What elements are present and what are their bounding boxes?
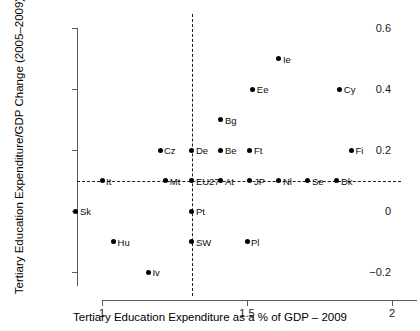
data-point-marker — [305, 178, 310, 183]
data-point-marker — [189, 239, 194, 244]
data-point-marker — [100, 178, 105, 183]
y-tick-mark — [72, 28, 77, 29]
data-point-label: Be — [225, 146, 237, 156]
data-point-label: Nl — [283, 177, 292, 187]
data-point-label: Pt — [196, 207, 205, 217]
data-point-marker — [245, 239, 250, 244]
data-point-marker — [218, 178, 223, 183]
data-point-label: Ee — [257, 85, 269, 95]
data-point-label: JP — [254, 177, 265, 187]
x-tick-mark — [102, 301, 103, 306]
data-point-label: SW — [196, 238, 211, 248]
data-point-label: Ft — [254, 146, 262, 156]
data-point-label: Fi — [355, 146, 363, 156]
y-axis-line — [77, 28, 78, 286]
data-point-label: Pl — [251, 238, 259, 248]
data-point-marker — [218, 117, 223, 122]
data-point-marker — [163, 178, 168, 183]
data-point-label: It — [106, 177, 111, 187]
data-point-label: EU27 — [196, 177, 220, 187]
data-point-marker — [146, 270, 151, 275]
data-point-label: Bg — [225, 116, 237, 126]
y-tick-mark — [72, 89, 77, 90]
y-tick-label: 0 — [385, 206, 391, 217]
data-point-label: Ie — [283, 55, 291, 65]
data-point-marker — [334, 178, 339, 183]
data-point-marker — [276, 56, 281, 61]
y-tick-label: −0.2 — [369, 267, 391, 278]
data-point-label: Sk — [80, 207, 91, 217]
data-point-label: Dk — [341, 177, 353, 187]
data-point-marker — [247, 148, 252, 153]
data-point-marker — [337, 87, 342, 92]
data-point-label: Cy — [344, 85, 356, 95]
data-point-label: Hu — [118, 238, 130, 248]
x-tick-mark — [392, 301, 393, 306]
y-tick-mark — [72, 272, 77, 273]
data-point-marker — [111, 239, 116, 244]
data-point-marker — [189, 178, 194, 183]
data-point-marker — [73, 209, 78, 214]
y-axis-title: Tertiary Education Expenditure/GDP Chang… — [13, 0, 25, 306]
y-tick-label: 0.4 — [376, 84, 391, 95]
scatter-plot-figure: 0.60.40.20−0.2 11.52 IeEeCyBgCzDeBeFtFiI… — [0, 0, 420, 331]
data-point-label: Iv — [152, 268, 159, 278]
x-tick-mark — [247, 301, 248, 306]
data-point-marker — [189, 148, 194, 153]
data-point-marker — [158, 148, 163, 153]
data-point-label: Se — [312, 177, 324, 187]
y-tick-label: 0.6 — [376, 23, 391, 34]
y-tick-label: 0.2 — [376, 145, 391, 156]
data-point-label: Cz — [164, 146, 176, 156]
y-tick-mark — [72, 150, 77, 151]
data-point-marker — [276, 178, 281, 183]
x-axis-line — [102, 300, 417, 301]
reference-line-vertical — [192, 14, 193, 296]
data-point-marker — [189, 209, 194, 214]
data-point-label: Mt — [170, 177, 181, 187]
data-point-label: De — [196, 146, 208, 156]
data-point-marker — [247, 178, 252, 183]
data-point-marker — [250, 87, 255, 92]
data-point-marker — [349, 148, 354, 153]
x-axis-title: Tertiary Education Expenditure as a % of… — [0, 311, 420, 323]
plot-area: 0.60.40.20−0.2 11.52 IeEeCyBgCzDeBeFtFiI… — [77, 14, 401, 280]
data-point-marker — [218, 148, 223, 153]
data-point-label: At — [225, 177, 234, 187]
